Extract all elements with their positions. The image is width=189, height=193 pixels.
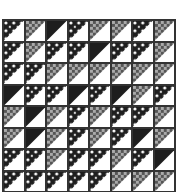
triangle-block-dots: [25, 149, 47, 171]
triangle-block-dots: [25, 85, 47, 107]
triangle-block-dots: [46, 171, 68, 193]
triangle-block-dots: [89, 171, 111, 193]
triangle-block-solid: [25, 106, 47, 128]
triangle-block-solid: [154, 149, 176, 171]
triangle-block-dots: [132, 149, 154, 171]
triangle-block-dots: [68, 106, 90, 128]
triangle-block-check: [111, 20, 133, 42]
triangle-block-check: [111, 149, 133, 171]
triangle-block-check: [46, 106, 68, 128]
triangle-block-dots: [25, 63, 47, 85]
triangle-block-dots: [111, 128, 133, 150]
triangle-block-check: [154, 106, 176, 128]
triangle-block-dots: [3, 63, 25, 85]
triangle-block-solid: [68, 85, 90, 107]
triangle-block-solid: [132, 128, 154, 150]
triangle-block-check: [89, 63, 111, 85]
triangle-block-dots: [132, 106, 154, 128]
triangle-block-check: [154, 63, 176, 85]
triangle-block-check: [46, 63, 68, 85]
triangle-block-dots: [3, 42, 25, 64]
triangle-block-check: [132, 63, 154, 85]
triangle-block-dots: [89, 149, 111, 171]
triangle-block-check: [89, 20, 111, 42]
triangle-block-solid: [25, 128, 47, 150]
triangle-block-check: [3, 128, 25, 150]
triangle-block-dots: [68, 128, 90, 150]
triangle-block-dots: [3, 149, 25, 171]
triangle-block-dots: [3, 171, 25, 193]
triangle-block-dots: [68, 171, 90, 193]
triangle-block-dots: [46, 85, 68, 107]
triangle-block-dots: [132, 20, 154, 42]
triangle-block-check: [89, 128, 111, 150]
triangle-block-solid: [3, 85, 25, 107]
triangle-block-solid: [89, 42, 111, 64]
quilt-grid: [2, 19, 176, 192]
triangle-block-check: [132, 171, 154, 193]
triangle-block-check: [46, 149, 68, 171]
triangle-block-dots: [89, 85, 111, 107]
triangle-block-check: [3, 106, 25, 128]
triangle-block-dots: [3, 20, 25, 42]
triangle-block-dots: [111, 42, 133, 64]
triangle-block-dots: [154, 85, 176, 107]
triangle-block-check: [25, 20, 47, 42]
triangle-block-check: [154, 171, 176, 193]
triangle-block-check: [25, 42, 47, 64]
triangle-block-dots: [132, 42, 154, 64]
triangle-block-check: [154, 128, 176, 150]
triangle-block-check: [154, 42, 176, 64]
triangle-block-check: [46, 128, 68, 150]
triangle-block-dots: [68, 149, 90, 171]
triangle-block-dots: [68, 20, 90, 42]
triangle-block-check: [154, 20, 176, 42]
triangle-block-dots: [68, 42, 90, 64]
triangle-block-check: [111, 63, 133, 85]
triangle-block-dots: [25, 171, 47, 193]
triangle-block-dots: [46, 42, 68, 64]
triangle-block-solid: [46, 20, 68, 42]
triangle-block-dots: [111, 106, 133, 128]
triangle-block-check: [132, 85, 154, 107]
triangle-block-check: [111, 171, 133, 193]
triangle-block-solid: [111, 85, 133, 107]
triangle-block-check: [68, 63, 90, 85]
triangle-block-check: [89, 106, 111, 128]
